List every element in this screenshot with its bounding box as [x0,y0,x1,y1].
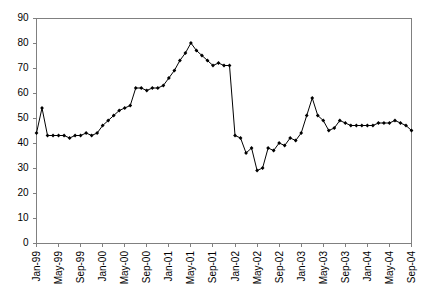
x-tick-label: Sep-02 [274,251,285,284]
data-point [388,121,392,125]
data-point [360,124,364,128]
x-tick-label: Jan-04 [362,251,373,282]
y-tick-label: 20 [17,187,29,198]
data-point [68,136,72,140]
x-tick-label: May-03 [318,251,329,285]
data-point [305,114,309,118]
data-point [349,124,353,128]
chart-container: 0102030405060708090 Jan-99May-99Sep-99Ja… [0,0,433,298]
data-point [382,121,386,125]
line-chart: 0102030405060708090 Jan-99May-99Sep-99Ja… [0,0,433,298]
x-tick-label: Jan-02 [230,251,241,282]
x-axis: Jan-99May-99Sep-99Jan-00May-00Sep-00Jan-… [31,18,417,284]
data-point [217,61,221,65]
x-tick-label: Sep-99 [75,251,86,284]
y-tick-label: 80 [17,37,29,48]
data-point [139,86,143,90]
data-point [233,134,237,138]
y-axis: 0102030405060708090 [17,12,36,248]
data-point [393,119,397,123]
data-point [123,106,127,110]
x-tick-label: Jan-01 [163,251,174,282]
data-point [62,134,66,138]
data-point [84,131,88,135]
x-tick-label: Jan-00 [97,251,108,282]
data-point [371,124,375,128]
series-line [37,43,412,171]
data-point [57,134,61,138]
data-point [365,124,369,128]
x-tick-label: Jan-99 [31,251,42,282]
data-point [40,106,44,110]
data-point [266,146,270,150]
data-point [255,169,259,173]
data-point [261,166,265,170]
data-point [156,86,160,90]
data-series [35,41,414,172]
data-point [145,89,149,93]
x-tick-label: May-02 [252,251,263,285]
x-tick-group: Jan-99May-99Sep-99Jan-00May-00Sep-00Jan-… [31,243,417,284]
series-markers [35,41,414,172]
y-tick-label: 60 [17,87,29,98]
x-tick-label: May-04 [384,251,395,285]
data-point [90,134,94,138]
x-tick-label: Sep-00 [141,251,152,284]
y-tick-label: 30 [17,162,29,173]
data-point [128,104,132,108]
data-point [354,124,358,128]
y-tick-label: 50 [17,112,29,123]
x-tick-label: May-01 [185,251,196,285]
y-tick-label: 40 [17,137,29,148]
x-tick-label: Jan-03 [296,251,307,282]
x-tick-label: Sep-03 [340,251,351,284]
data-point [51,134,55,138]
data-point [343,121,347,125]
data-point [134,86,138,90]
data-point [228,64,232,68]
data-point [377,121,381,125]
y-tick-label: 90 [17,12,29,23]
data-point [150,86,154,90]
y-tick-label: 70 [17,62,29,73]
data-point [310,96,314,100]
data-point [327,129,331,133]
x-tick-label: Sep-04 [406,251,417,284]
x-tick-label: May-00 [119,251,130,285]
data-point [222,64,226,68]
y-tick-group: 0102030405060708090 [17,12,36,248]
x-tick-label: Sep-01 [207,251,218,284]
data-point [73,134,77,138]
x-tick-label: May-99 [53,251,64,285]
data-point [35,131,39,135]
data-point [46,134,50,138]
data-point [79,134,83,138]
y-tick-label: 0 [23,237,29,248]
data-point [399,121,403,125]
y-tick-label: 10 [17,212,29,223]
data-point [239,136,243,140]
